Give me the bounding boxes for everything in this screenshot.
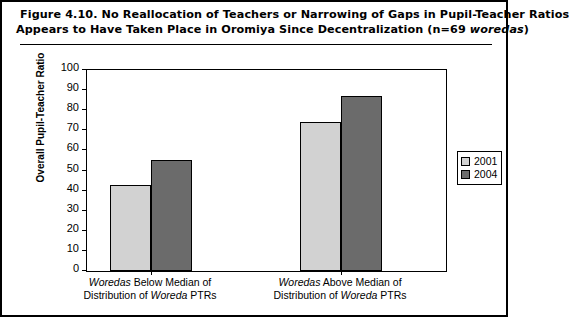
y-axis-tick-label: 30 — [39, 203, 79, 214]
bar-2001-group-1 — [110, 185, 151, 271]
figure-title-line-2: Appears to Have Taken Place in Oromiya S… — [16, 22, 494, 37]
y-axis-tick-label: 0 — [39, 263, 79, 274]
legend-label: 2001 — [474, 156, 497, 167]
category-label-line-2: Distribution of Woreda PTRs — [230, 289, 450, 302]
y-axis-tick-label: 60 — [39, 142, 79, 153]
figure-title: Figure 4.10. No Reallocation of Teachers… — [16, 7, 494, 37]
y-axis-tick-label: 10 — [39, 243, 79, 254]
bar-2001-group-2 — [300, 122, 341, 271]
y-axis-tick-label: 70 — [39, 122, 79, 133]
y-axis-tick-mark — [82, 69, 87, 70]
x-axis-category-label-2: Woredas Above Median ofDistribution of W… — [230, 276, 450, 302]
figure-title-line-2-italic: woredas — [470, 23, 524, 36]
y-axis-tick-mark — [82, 210, 87, 211]
plot-inner: 1009080706050403020100 — [87, 70, 446, 271]
legend-label: 2004 — [474, 169, 497, 180]
title-divider — [20, 44, 492, 45]
category-label-line-1: Woredas Below Median of — [40, 276, 260, 289]
figure-title-line-2-post: ) — [524, 23, 529, 36]
y-axis-tick-mark — [82, 109, 87, 110]
bar-2004-group-1 — [151, 160, 192, 271]
category-label-italic: Woredas — [89, 276, 131, 288]
legend-swatch-icon — [461, 170, 470, 179]
y-axis-tick-label: 50 — [39, 163, 79, 174]
y-axis-tick-mark — [82, 230, 87, 231]
y-axis-tick-mark — [82, 250, 87, 251]
bar-2004-group-2 — [341, 96, 382, 271]
y-axis-tick-label: 40 — [39, 183, 79, 194]
legend-item-2001: 2001 — [461, 155, 497, 168]
y-axis-tick-mark — [82, 149, 87, 150]
y-axis-tick-label: 90 — [39, 82, 79, 93]
category-label-italic: Woredas — [278, 276, 320, 288]
x-axis-group-tick — [341, 271, 342, 275]
y-axis-tick-label: 100 — [39, 62, 79, 73]
category-label-italic: Woreda — [341, 289, 378, 301]
y-axis-tick-mark — [82, 129, 87, 130]
category-label-line-2: Distribution of Woreda PTRs — [40, 289, 260, 302]
figure-title-line-1: Figure 4.10. No Reallocation of Teachers… — [16, 7, 494, 22]
chart-legend: 20012004 — [457, 151, 502, 185]
legend-swatch-icon — [461, 157, 470, 166]
y-axis-tick-label: 20 — [39, 223, 79, 234]
y-axis-tick-mark — [82, 170, 87, 171]
y-axis-tick-mark — [82, 270, 87, 271]
figure-title-line-2-pre: Appears to Have Taken Place in Oromiya S… — [16, 23, 470, 36]
x-axis-group-tick — [151, 271, 152, 275]
y-axis-tick-mark — [82, 190, 87, 191]
category-label-line-1: Woredas Above Median of — [230, 276, 450, 289]
category-label-italic: Woreda — [151, 289, 188, 301]
x-axis-category-label-1: Woredas Below Median ofDistribution of W… — [40, 276, 260, 302]
y-axis-tick-mark — [82, 89, 87, 90]
plot-area: 1009080706050403020100 — [86, 69, 447, 272]
legend-item-2004: 2004 — [461, 168, 497, 181]
y-axis-tick-label: 80 — [39, 102, 79, 113]
